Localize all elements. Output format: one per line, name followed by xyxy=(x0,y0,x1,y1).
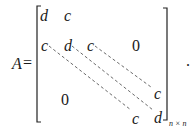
entry-r2c2: d xyxy=(64,38,72,54)
entry-rn-1-last: c xyxy=(154,86,161,102)
right-bracket xyxy=(163,8,167,120)
entry-rn-cn: d xyxy=(154,110,162,126)
dimension-subscript: n × n xyxy=(169,120,186,128)
superdiagonal-dashes xyxy=(95,46,151,87)
entry-rn-cn-1: c xyxy=(132,111,139,127)
matrix-name: A xyxy=(12,56,22,72)
main-diagonal-dashes xyxy=(72,46,153,110)
entry-r2c3: c xyxy=(87,38,94,54)
entry-r1c1: d xyxy=(40,8,48,24)
equals-sign: = xyxy=(23,55,32,71)
upper-zero: 0 xyxy=(132,38,140,54)
entry-r1c2: c xyxy=(64,8,71,24)
lower-zero: 0 xyxy=(61,92,69,108)
entry-r2c1: c xyxy=(41,38,48,54)
trailing-period: . xyxy=(186,53,190,69)
